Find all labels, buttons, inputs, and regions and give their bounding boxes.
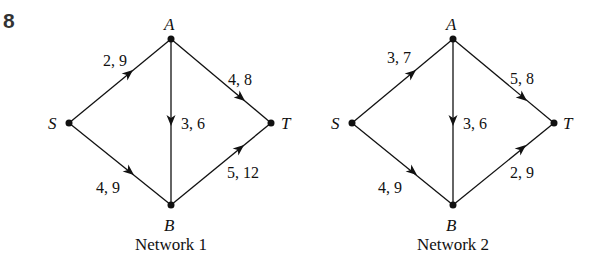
edge-label-a-t: 5, 8: [510, 70, 534, 87]
edge-b-t: [453, 123, 554, 205]
network-diagrams: S A B T 2, 9 4, 9 3, 6 4, 8 5, 12 Networ…: [0, 0, 608, 258]
node-label-a: A: [163, 15, 175, 34]
node-label-t: T: [563, 114, 574, 133]
node-t: [551, 120, 558, 127]
node-s: [349, 120, 356, 127]
network-1-title: Network 1: [135, 235, 207, 254]
edge-s-b: [69, 123, 171, 205]
node-label-t: T: [281, 114, 292, 133]
network-2: S A B T 3, 7 4, 9 3, 6 5, 8 2, 9 Network…: [331, 15, 574, 254]
node-s: [66, 120, 73, 127]
edge-s-b: [352, 123, 453, 205]
node-label-b: B: [164, 216, 175, 235]
edge-a-t: [453, 39, 554, 123]
edge-label-a-b: 3, 6: [463, 115, 487, 132]
network-2-title: Network 2: [417, 235, 489, 254]
node-a: [450, 36, 457, 43]
edge-label-a-t: 4, 8: [228, 71, 252, 88]
edge-label-s-b: 4, 9: [378, 179, 402, 196]
node-label-b: B: [446, 216, 457, 235]
node-a: [168, 36, 175, 43]
node-b: [168, 202, 175, 209]
edge-label-s-b: 4, 9: [96, 179, 120, 196]
edge-label-s-a: 2, 9: [103, 52, 127, 69]
node-label-a: A: [445, 15, 457, 34]
edge-a-t: [171, 39, 271, 123]
edge-label-b-t: 2, 9: [510, 164, 534, 181]
network-1: S A B T 2, 9 4, 9 3, 6 4, 8 5, 12 Networ…: [48, 15, 292, 254]
edge-label-a-b: 3, 6: [181, 115, 205, 132]
edge-label-b-t: 5, 12: [227, 164, 259, 181]
node-b: [450, 202, 457, 209]
node-label-s: S: [48, 114, 57, 133]
node-label-s: S: [331, 114, 340, 133]
node-t: [268, 120, 275, 127]
edge-label-s-a: 3, 7: [387, 49, 411, 66]
